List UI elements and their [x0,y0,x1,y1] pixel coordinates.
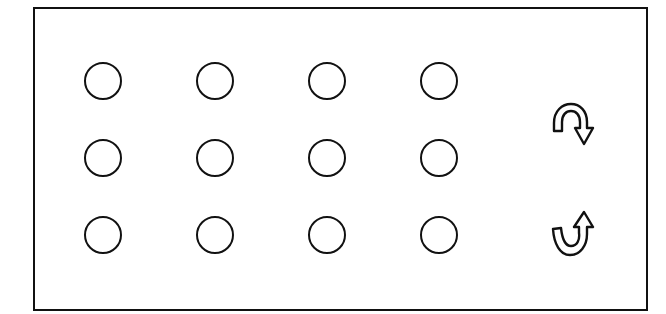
rotate-counterclockwise-icon [549,209,597,259]
peg-r3-c3[interactable] [308,216,346,254]
puzzle-stage: Rotate clockwise Rotate counterclockwise [0,0,666,314]
rotate-counterclockwise-button[interactable]: Rotate counterclockwise [549,209,597,259]
peg-r2-c3[interactable] [308,139,346,177]
peg-r3-c4[interactable] [420,216,458,254]
rotate-clockwise-icon [549,100,597,150]
peg-r1-c1[interactable] [84,62,122,100]
peg-r2-c2[interactable] [196,139,234,177]
peg-r1-c4[interactable] [420,62,458,100]
peg-r1-c3[interactable] [308,62,346,100]
rotate-clockwise-button[interactable]: Rotate clockwise [549,100,597,150]
peg-r1-c2[interactable] [196,62,234,100]
peg-r2-c1[interactable] [84,139,122,177]
peg-r3-c2[interactable] [196,216,234,254]
peg-r2-c4[interactable] [420,139,458,177]
peg-r3-c1[interactable] [84,216,122,254]
